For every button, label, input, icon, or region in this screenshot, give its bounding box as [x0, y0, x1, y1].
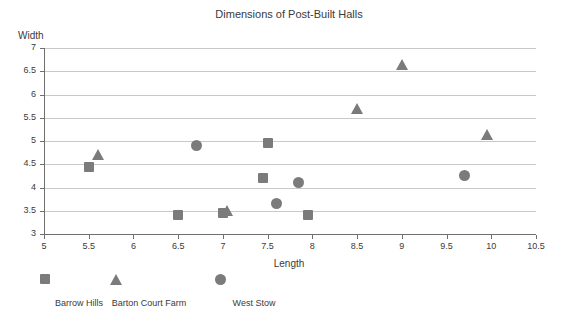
x-axis-label: Length: [0, 258, 578, 269]
y-tick-label: 4: [10, 182, 36, 192]
y-tick: [40, 141, 44, 142]
plot-area: [44, 48, 536, 234]
x-tick: [402, 235, 403, 239]
y-tick-label: 3: [10, 228, 36, 238]
y-tick: [40, 71, 44, 72]
y-tick-label: 5.5: [10, 112, 36, 122]
y-tick-label: 6.5: [10, 65, 36, 75]
x-tick: [357, 235, 358, 239]
data-point: [221, 205, 233, 216]
x-tick: [536, 235, 537, 239]
legend-marker: [40, 274, 50, 284]
x-tick-label: 7: [208, 241, 238, 251]
y-tick: [40, 164, 44, 165]
x-tick: [447, 235, 448, 239]
y-tick: [40, 95, 44, 96]
x-tick: [268, 235, 269, 239]
x-tick: [223, 235, 224, 239]
scatter-chart: Dimensions of Post-Built Halls Width Len…: [0, 0, 578, 325]
chart-legend: Barrow HillsBarton Court FarmWest Stow: [0, 274, 578, 318]
x-tick-label: 6.5: [163, 241, 193, 251]
data-point: [396, 59, 408, 70]
x-tick-label: 10: [476, 241, 506, 251]
y-tick-label: 3.5: [10, 205, 36, 215]
y-axis-label: Width: [18, 30, 44, 41]
data-point: [258, 173, 268, 183]
x-tick-label: 9: [387, 241, 417, 251]
x-axis-line: [44, 234, 536, 235]
x-tick-label: 5: [29, 241, 59, 251]
data-point: [191, 140, 202, 151]
data-point: [351, 103, 363, 114]
y-tick: [40, 188, 44, 189]
data-point: [263, 138, 273, 148]
x-tick: [44, 235, 45, 239]
x-tick: [312, 235, 313, 239]
data-point: [303, 210, 313, 220]
x-tick-label: 6: [118, 241, 148, 251]
data-point: [271, 198, 282, 209]
data-point: [459, 170, 470, 181]
y-tick-label: 7: [10, 42, 36, 52]
y-tick-label: 5: [10, 135, 36, 145]
x-tick-label: 7.5: [253, 241, 283, 251]
chart-title: Dimensions of Post-Built Halls: [0, 8, 578, 20]
x-tick-label: 5.5: [74, 241, 104, 251]
x-tick: [133, 235, 134, 239]
x-tick-label: 9.5: [432, 241, 462, 251]
x-tick-label: 10.5: [521, 241, 551, 251]
data-point: [173, 210, 183, 220]
x-tick: [178, 235, 179, 239]
legend-marker: [110, 274, 122, 285]
legend-label: Barton Court Farm: [94, 298, 204, 308]
y-tick-label: 6: [10, 89, 36, 99]
data-point: [92, 149, 104, 160]
x-tick-label: 8.5: [342, 241, 372, 251]
y-tick: [40, 48, 44, 49]
data-point: [84, 162, 94, 172]
y-tick: [40, 211, 44, 212]
y-tick: [40, 118, 44, 119]
data-point: [481, 129, 493, 140]
data-point: [293, 177, 304, 188]
legend-marker: [215, 274, 226, 285]
legend-label: West Stow: [199, 298, 309, 308]
y-tick-label: 4.5: [10, 158, 36, 168]
x-tick: [491, 235, 492, 239]
x-tick: [89, 235, 90, 239]
x-tick-label: 8: [297, 241, 327, 251]
